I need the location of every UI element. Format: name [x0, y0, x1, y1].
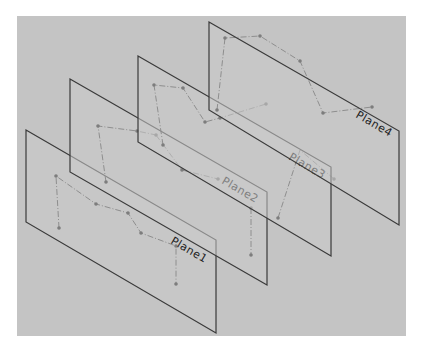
sketch-point[interactable]: [139, 231, 143, 235]
sketch-point[interactable]: [223, 36, 227, 40]
sketch-point[interactable]: [94, 202, 98, 206]
sketch-point[interactable]: [174, 282, 178, 286]
sketch-point[interactable]: [276, 216, 280, 220]
sketch-point[interactable]: [57, 226, 61, 230]
sketch-point[interactable]: [181, 86, 185, 90]
sketch-point[interactable]: [104, 180, 108, 184]
sketch-point[interactable]: [321, 111, 325, 115]
sketch-point[interactable]: [96, 124, 100, 128]
sketch-point[interactable]: [298, 59, 302, 63]
sketch-point[interactable]: [54, 174, 58, 178]
sketch-point[interactable]: [161, 143, 165, 147]
sketch-point[interactable]: [152, 83, 156, 87]
sketch-point[interactable]: [126, 211, 130, 215]
sketch-point[interactable]: [215, 108, 219, 112]
graphics-viewport[interactable]: Plane1Plane2Plane3Plane4: [0, 0, 421, 351]
sketch-point[interactable]: [249, 253, 253, 257]
sketch-point[interactable]: [258, 34, 262, 38]
sketch-point[interactable]: [370, 105, 374, 109]
sketch-point[interactable]: [203, 120, 207, 124]
